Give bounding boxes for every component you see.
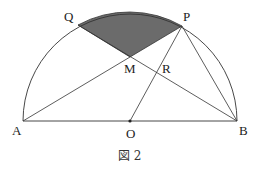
label-o: O: [126, 126, 135, 141]
label-m: M: [124, 61, 136, 76]
segment-pb: [182, 26, 237, 121]
label-p: P: [183, 9, 190, 24]
segment-am: [23, 57, 130, 121]
label-b: B: [239, 123, 248, 138]
label-r: R: [162, 61, 171, 76]
label-q: Q: [64, 9, 74, 24]
semicircle-diagram: Q P M R A O B 図 2: [0, 0, 256, 170]
label-a: A: [12, 123, 22, 138]
figure-caption: 図 2: [118, 149, 141, 163]
center-point-o: [128, 119, 131, 122]
